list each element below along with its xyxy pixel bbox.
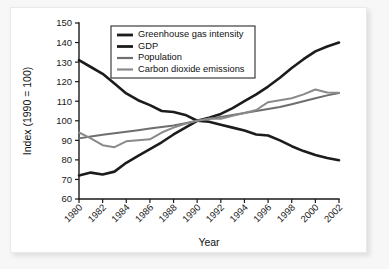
x-axis-tick-label: 1988 — [156, 202, 179, 225]
x-axis-title: Year — [198, 236, 220, 248]
y-axis-tick-label: 100 — [56, 115, 72, 126]
y-axis-tick-label: 80 — [61, 154, 72, 165]
x-axis-tick-label: 1998 — [274, 202, 297, 225]
legend-label-3: Carbon dioxide emissions — [138, 64, 245, 74]
legend-label-0: Greenhouse gas intensity — [138, 29, 244, 39]
series-line-carbon-dioxide-emissions — [79, 89, 339, 147]
legend-label-1: GDP — [138, 41, 158, 51]
x-axis-tick-label: 1984 — [109, 202, 132, 225]
y-axis-tick-label: 90 — [61, 135, 72, 146]
series-line-population — [79, 93, 339, 138]
x-axis-tick-label: 1986 — [133, 202, 156, 225]
x-axis-tick-label: 1980 — [62, 202, 85, 225]
x-axis-tick-label: 1994 — [227, 202, 250, 225]
x-axis-tick-label: 2000 — [298, 202, 321, 225]
x-axis-tick-label: 1996 — [251, 202, 274, 225]
y-axis-tick-label: 110 — [57, 96, 72, 107]
x-axis-tick-label: 1990 — [180, 202, 203, 225]
chart-card: 6070809010011012013014015019801982198419… — [10, 7, 367, 253]
legend-label-2: Population — [138, 52, 182, 62]
x-axis-tick-label: 2002 — [322, 202, 345, 225]
y-axis-tick-label: 150 — [56, 17, 72, 28]
x-axis-tick-label: 1992 — [204, 202, 227, 225]
y-axis-tick-label: 140 — [56, 37, 72, 48]
y-axis-tick-label: 120 — [56, 76, 72, 87]
y-axis-tick-label: 70 — [61, 174, 72, 185]
x-axis-tick-label: 1982 — [85, 202, 108, 225]
y-axis-tick-label: 60 — [61, 193, 72, 204]
y-axis-title: Index (1990 = 100) — [21, 67, 33, 155]
y-axis-tick-label: 130 — [56, 57, 72, 68]
line-chart: 6070809010011012013014015019801982198419… — [11, 8, 366, 252]
figure-root: 6070809010011012013014015019801982198419… — [0, 0, 389, 269]
